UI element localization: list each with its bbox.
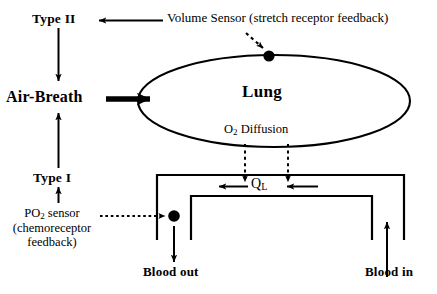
po2-sensor-text-pre: PO [24,206,40,220]
po2-sensor-text-post: sensor [45,206,80,220]
po2-sensor-line3: feedback) [27,235,76,249]
label-o2-diffusion: O2 Diffusion [224,122,288,137]
label-po2-sensor: PO2 sensor (chemoreceptor feedback) [2,206,102,249]
o2-diffusion-text-post: Diffusion [238,122,289,136]
po2-sensor-node [168,210,180,222]
outer-vessel-wall [157,175,404,239]
label-type-ii: Type II [32,11,76,26]
volume-sensor-node [263,50,274,61]
po2-sensor-line2: (chemoreceptor [13,221,91,235]
ql-subscript: L [261,181,267,192]
o2-diffusion-text-pre: O [224,122,233,136]
label-blood-out: Blood out [143,265,199,280]
label-type-i: Type I [33,170,71,185]
inner-vessel-wall [191,196,372,239]
ql-text-pre: Q [251,176,261,191]
diagram-canvas [0,0,437,294]
label-volume-sensor: Volume Sensor (stretch receptor feedback… [167,11,388,26]
volume-sensor-to-lung-dotted-arrow [246,33,263,48]
label-lung: Lung [242,82,282,101]
lung-feedback-diagram: Type II Volume Sensor (stretch receptor … [0,0,437,294]
label-ql: QL [251,176,267,192]
label-blood-in: Blood in [365,265,413,280]
label-air-breath: Air-Breath [6,88,83,106]
